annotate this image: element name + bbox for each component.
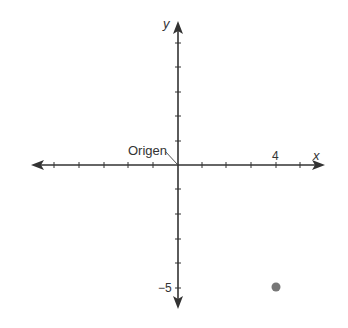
coordinate-plane: y x 4 −5 Origen <box>0 0 348 328</box>
plotted-point <box>272 283 281 292</box>
x-tick-label-4: 4 <box>272 149 279 163</box>
x-axis-label: x <box>312 148 320 163</box>
y-axis-label: y <box>162 16 171 31</box>
origin-label: Origen <box>128 143 167 158</box>
y-tick-label-neg5: −5 <box>158 281 172 295</box>
